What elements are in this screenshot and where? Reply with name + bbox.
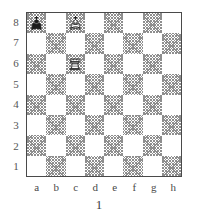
empty-square-slot (85, 54, 104, 74)
empty-square-slot (104, 115, 123, 135)
empty-square-slot (143, 33, 162, 53)
empty-square-slot (123, 115, 142, 135)
file-label-f: f (125, 179, 145, 195)
white-rook-icon[interactable] (66, 54, 85, 74)
chess-diagram-figure: 87654321 abcdefgh 1 (0, 0, 198, 224)
empty-square-slot (104, 135, 123, 155)
empty-square-slot (66, 135, 85, 155)
empty-square-slot (85, 33, 104, 53)
empty-square-slot (143, 156, 162, 176)
empty-square-slot (85, 115, 104, 135)
empty-square-slot (27, 156, 46, 176)
empty-square-slot (46, 115, 65, 135)
empty-square-slot (162, 33, 181, 53)
empty-square-slot (123, 95, 142, 115)
empty-square-slot (46, 156, 65, 176)
empty-square-slot (85, 156, 104, 176)
empty-square-slot (104, 54, 123, 74)
file-label-d: d (86, 179, 106, 195)
empty-square-slot (27, 74, 46, 94)
rank-label-8: 8 (8, 12, 24, 33)
file-label-h: h (164, 179, 184, 195)
empty-square-slot (162, 115, 181, 135)
file-label-c: c (66, 179, 86, 195)
empty-square-slot (85, 13, 104, 33)
empty-square-slot (85, 95, 104, 115)
file-label-a: a (27, 179, 47, 195)
empty-square-slot (104, 95, 123, 115)
empty-square-slot (143, 95, 162, 115)
rank-label-1: 1 (8, 156, 24, 177)
figure-caption: 1 (0, 198, 198, 211)
board-pieces (27, 13, 181, 176)
rank-label-2: 2 (8, 136, 24, 157)
empty-square-slot (143, 74, 162, 94)
empty-square-slot (66, 115, 85, 135)
empty-square-slot (66, 95, 85, 115)
empty-square-slot (143, 54, 162, 74)
file-label-row: abcdefgh (27, 179, 183, 195)
empty-square-slot (143, 13, 162, 33)
empty-square-slot (46, 54, 65, 74)
empty-square-slot (27, 54, 46, 74)
empty-square-slot (66, 74, 85, 94)
empty-square-slot (104, 156, 123, 176)
white-king-icon[interactable] (66, 13, 85, 33)
empty-square-slot (27, 95, 46, 115)
empty-square-slot (66, 156, 85, 176)
file-label-e: e (105, 179, 125, 195)
empty-square-slot (85, 135, 104, 155)
empty-square-slot (104, 74, 123, 94)
empty-square-slot (46, 33, 65, 53)
chess-board[interactable] (26, 12, 182, 177)
rank-label-6: 6 (8, 53, 24, 74)
empty-square-slot (162, 135, 181, 155)
empty-square-slot (162, 74, 181, 94)
empty-square-slot (162, 54, 181, 74)
file-label-g: g (144, 179, 164, 195)
empty-square-slot (104, 33, 123, 53)
empty-square-slot (162, 95, 181, 115)
empty-square-slot (162, 156, 181, 176)
empty-square-slot (66, 33, 85, 53)
file-label-b: b (47, 179, 67, 195)
rank-label-3: 3 (8, 115, 24, 136)
empty-square-slot (46, 95, 65, 115)
empty-square-slot (46, 74, 65, 94)
empty-square-slot (123, 156, 142, 176)
empty-square-slot (46, 135, 65, 155)
empty-square-slot (143, 135, 162, 155)
black-king-icon[interactable] (27, 13, 46, 33)
empty-square-slot (123, 33, 142, 53)
empty-square-slot (162, 13, 181, 33)
rank-label-7: 7 (8, 33, 24, 54)
empty-square-slot (123, 74, 142, 94)
empty-square-slot (104, 13, 123, 33)
empty-square-slot (27, 33, 46, 53)
rank-label-4: 4 (8, 95, 24, 116)
empty-square-slot (123, 13, 142, 33)
empty-square-slot (123, 54, 142, 74)
empty-square-slot (123, 135, 142, 155)
empty-square-slot (27, 135, 46, 155)
empty-square-slot (27, 115, 46, 135)
rank-label-column: 87654321 (8, 12, 24, 177)
empty-square-slot (85, 74, 104, 94)
empty-square-slot (143, 115, 162, 135)
rank-label-5: 5 (8, 74, 24, 95)
empty-square-slot (46, 13, 65, 33)
